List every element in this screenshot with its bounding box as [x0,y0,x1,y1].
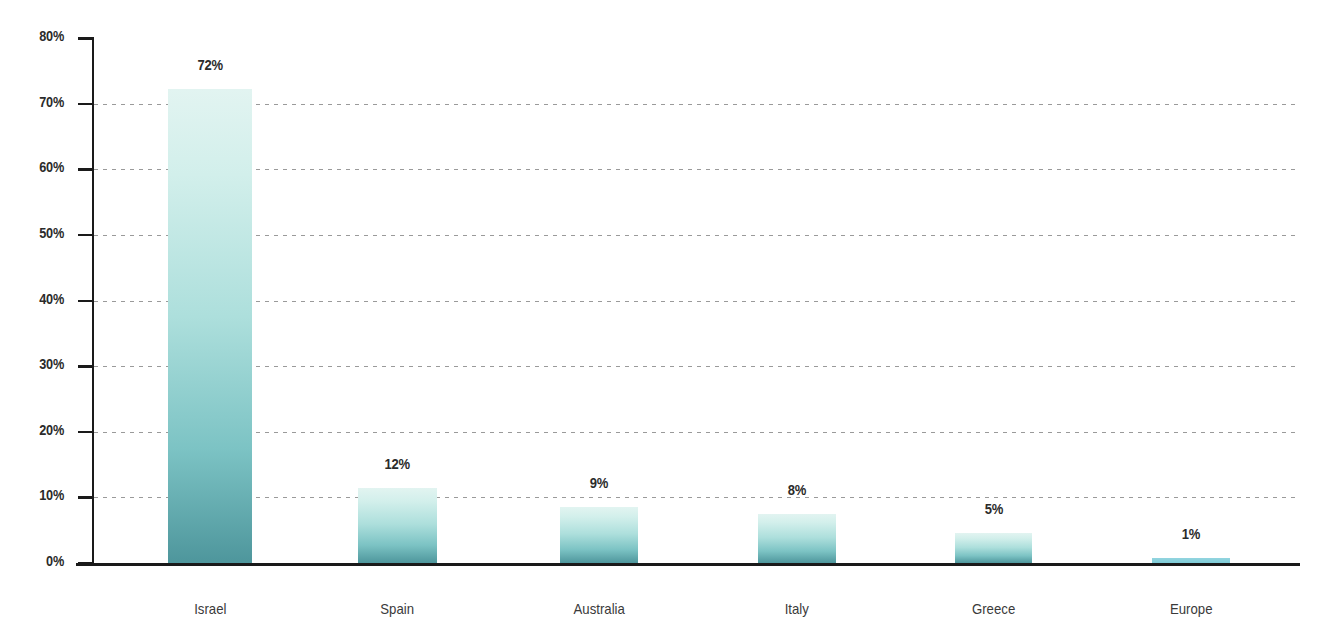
bar-value-label: 12% [328,455,467,473]
bar-group: 1%Europe [1152,0,1230,638]
bar-value-text: 8% [788,481,806,499]
x-axis-category-label: Australia [490,600,708,617]
bar[interactable] [758,514,836,563]
bar[interactable] [955,533,1032,563]
bar-group: 5%Greece [955,0,1032,638]
bar[interactable] [358,488,437,563]
bar-group: 8%Italy [758,0,836,638]
bar-value-text: 1% [1182,525,1200,543]
x-axis-category-label: Greece [885,600,1102,617]
x-axis-category-label: Spain [288,600,507,617]
bar[interactable] [560,507,638,563]
bar-value-text: 12% [385,455,410,473]
x-axis-category-text: Italy [785,600,809,617]
x-axis-category-text: Europe [1170,600,1213,617]
bar-group: 9%Australia [560,0,638,638]
bar-chart: 80%70%60%50%40%30%20%10%0% 72%Israel12%S… [0,0,1317,638]
bar-value-label: 5% [925,500,1062,518]
x-axis-category-text: Australia [573,600,624,617]
plot-area: 72%Israel12%Spain9%Australia8%Italy5%Gre… [0,0,1317,638]
x-axis-category-label: Italy [688,600,906,617]
bar-group: 72%Israel [168,0,252,638]
x-axis-category-text: Spain [381,600,415,617]
x-axis-category-text: Greece [972,600,1015,617]
bar-value-text: 9% [590,474,608,492]
bar-value-text: 72% [197,56,222,74]
bar-value-text: 5% [984,500,1002,518]
bar-value-label: 9% [530,474,668,492]
x-axis-category-text: Israel [194,600,226,617]
bar-value-label: 8% [728,481,866,499]
bar-group: 12%Spain [358,0,437,638]
bar[interactable] [168,89,252,563]
bar[interactable] [1152,558,1230,563]
bar-value-label: 1% [1122,525,1260,543]
bar-value-label: 72% [138,56,282,74]
x-axis-category-label: Europe [1082,600,1300,617]
